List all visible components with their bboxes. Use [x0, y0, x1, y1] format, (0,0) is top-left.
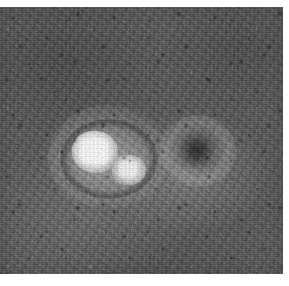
page-margin-bottom: [0, 274, 289, 286]
image-speckle-b: [0, 7, 283, 274]
page-root: Image by Keith Matthews and Gary Hodgson…: [0, 0, 289, 286]
page-margin-right: [283, 0, 289, 286]
image-canvas: [0, 7, 283, 274]
image-credit-caption: Image by Keith Matthews and Gary Hodgson…: [0, 0, 289, 5]
astronomical-image: [0, 7, 283, 274]
